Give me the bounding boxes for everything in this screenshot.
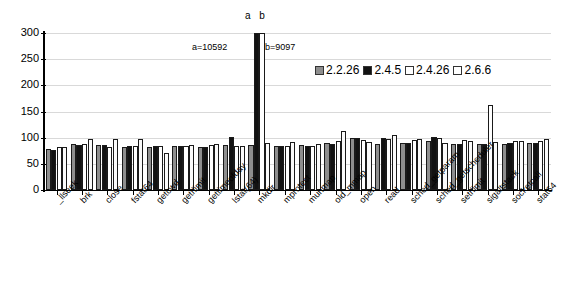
annotation-b-value: b=9097 <box>265 43 295 52</box>
bar <box>431 137 436 190</box>
bar <box>412 140 417 190</box>
legend-label: 2.6.6 <box>464 64 491 76</box>
bar <box>189 145 194 190</box>
x-axis-tick-mark <box>259 190 260 195</box>
bar <box>46 149 51 190</box>
y-axis-tick-label: 250 <box>0 53 39 64</box>
bar <box>248 145 253 190</box>
bar <box>254 33 259 190</box>
legend-label: 2.4.5 <box>374 64 401 76</box>
bar <box>451 144 456 190</box>
bar <box>127 146 132 190</box>
bar <box>203 147 208 190</box>
x-axis-tick-mark <box>386 190 387 195</box>
x-axis-tick-mark <box>107 190 108 195</box>
bar-group <box>526 33 551 190</box>
bar <box>392 135 397 190</box>
bar <box>462 140 467 190</box>
bar-group <box>475 33 500 190</box>
bar <box>330 144 335 190</box>
bar <box>279 146 284 190</box>
y-axis-tick-mark <box>41 164 46 165</box>
bar-group <box>145 33 170 190</box>
clipped-caption <box>0 296 569 303</box>
bar <box>482 144 487 190</box>
bar <box>507 143 512 190</box>
y-axis-tick-mark <box>41 85 46 86</box>
x-axis-tick-mark <box>310 190 311 195</box>
bar <box>527 143 532 190</box>
bar-group <box>196 33 221 190</box>
bar <box>519 141 524 190</box>
bar <box>113 139 118 190</box>
x-axis-tick-mark <box>488 190 489 195</box>
x-axis-tick-mark <box>462 190 463 195</box>
x-axis-tick-mark <box>513 190 514 195</box>
bar <box>361 140 366 190</box>
bar <box>468 141 473 190</box>
bar <box>488 105 493 190</box>
bar <box>400 143 405 190</box>
bar <box>442 143 447 190</box>
bar <box>375 144 380 190</box>
bar <box>341 131 346 190</box>
bar <box>544 139 549 190</box>
bar-group <box>247 33 272 190</box>
bar <box>138 139 143 190</box>
x-axis-tick-mark <box>158 190 159 195</box>
legend-item: 2.4.5 <box>363 64 401 76</box>
bar <box>538 141 543 190</box>
bar <box>234 146 239 190</box>
annotation-a-value: a=10592 <box>192 43 227 52</box>
x-axis-tick-mark <box>412 190 413 195</box>
y-axis-tick-label: 150 <box>0 106 39 117</box>
bar <box>437 138 442 190</box>
x-axis-line <box>43 190 552 191</box>
bar <box>285 146 290 190</box>
bar <box>223 145 228 190</box>
y-axis-tick-label: 0 <box>0 184 39 195</box>
bar <box>417 139 422 190</box>
legend-swatch-icon <box>363 66 372 75</box>
bar-chart: 050100150200250300 _llseekbrkclosefstat6… <box>0 0 569 303</box>
y-axis-tick-mark <box>41 59 46 60</box>
bar <box>147 147 152 190</box>
bar <box>477 144 482 190</box>
bar <box>122 147 127 190</box>
y-axis-tick-mark <box>41 33 46 34</box>
bar <box>310 146 315 190</box>
x-axis-tick-mark <box>209 190 210 195</box>
bar <box>386 139 391 190</box>
bar <box>88 139 93 190</box>
x-axis-tick-mark <box>285 190 286 195</box>
x-axis-tick-mark <box>336 190 337 195</box>
bar <box>457 144 462 190</box>
bar-group <box>120 33 145 190</box>
legend-label: 2.4.26 <box>416 64 449 76</box>
bar <box>51 150 56 190</box>
bar <box>107 147 112 190</box>
bar <box>229 137 234 190</box>
bar <box>158 146 163 190</box>
bar <box>533 143 538 190</box>
x-axis-tick-mark <box>361 190 362 195</box>
bar <box>71 144 76 190</box>
bar <box>62 147 67 190</box>
legend-swatch-icon <box>405 66 414 75</box>
bar-group <box>374 33 399 190</box>
bar-group <box>399 33 424 190</box>
legend-item: 2.4.26 <box>405 64 449 76</box>
bar <box>426 141 431 190</box>
x-axis-tick-mark <box>437 190 438 195</box>
y-axis-tick-label: 100 <box>0 132 39 143</box>
bar <box>355 138 360 190</box>
bar-group <box>348 33 373 190</box>
legend-item: 2.6.6 <box>453 64 491 76</box>
y-axis-tick-label: 300 <box>0 27 39 38</box>
bar-group <box>500 33 525 190</box>
y-axis-tick-mark <box>41 190 46 191</box>
bar <box>406 143 411 190</box>
bar-group <box>298 33 323 190</box>
legend-label: 2.2.26 <box>326 64 359 76</box>
bar <box>153 146 158 190</box>
